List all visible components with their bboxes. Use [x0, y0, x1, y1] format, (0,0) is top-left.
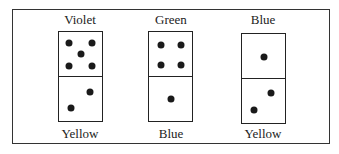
pip [261, 54, 268, 61]
pip [158, 42, 165, 49]
domino-3-top-label: Blue [223, 12, 303, 28]
domino-2 [148, 31, 193, 122]
pip [68, 104, 75, 111]
domino-1-bottom-half [59, 77, 102, 122]
domino-2-bottom-half [149, 77, 192, 122]
pip [78, 51, 85, 58]
pip [87, 88, 94, 95]
domino-1-top-half [59, 32, 102, 77]
pip [89, 40, 96, 47]
pip [66, 40, 73, 47]
pip [251, 106, 258, 113]
domino-3-bottom-label: Yellow [223, 126, 303, 142]
pip [268, 89, 275, 96]
domino-2-bottom-label: Blue [131, 126, 211, 142]
domino-1-top-label: Violet [40, 12, 120, 28]
pip [178, 42, 185, 49]
pip [178, 62, 185, 69]
pip [89, 63, 96, 70]
domino-3 [241, 33, 286, 124]
domino-2-top-label: Green [131, 12, 211, 28]
pip [158, 62, 165, 69]
domino-3-top-half [242, 34, 285, 79]
pip [168, 95, 175, 102]
domino-2-top-half [149, 32, 192, 77]
domino-3-bottom-half [242, 79, 285, 124]
domino-1 [58, 31, 103, 122]
domino-1-bottom-label: Yellow [40, 126, 120, 142]
pip [66, 63, 73, 70]
